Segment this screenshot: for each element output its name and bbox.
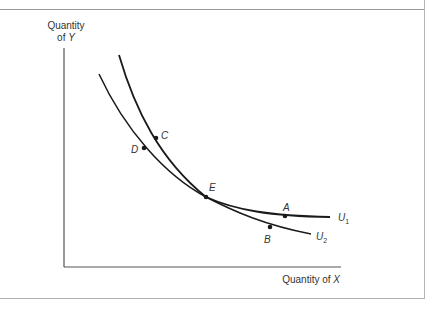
u1-label: U1	[338, 212, 349, 225]
point-c-marker	[154, 136, 159, 141]
y-axis-label-line2: of Y	[57, 32, 76, 43]
curve-u1	[119, 55, 330, 217]
point-e-marker	[204, 195, 209, 200]
point-c-label: C	[161, 130, 169, 141]
x-axis-label: Quantity of X	[282, 274, 340, 285]
point-a-marker	[283, 214, 288, 219]
point-e-label: E	[209, 182, 216, 193]
point-d-marker	[142, 146, 147, 151]
point-d-label: D	[131, 144, 138, 155]
point-a-label: A	[282, 202, 290, 213]
point-b-label: B	[264, 234, 271, 245]
u2-label: U2	[316, 231, 327, 244]
indifference-curve-diagram: Quantity of Y Quantity of X C D E A B U1…	[0, 0, 439, 311]
y-axis-label-line1: Quantity	[47, 20, 84, 31]
point-b-marker	[268, 225, 273, 230]
